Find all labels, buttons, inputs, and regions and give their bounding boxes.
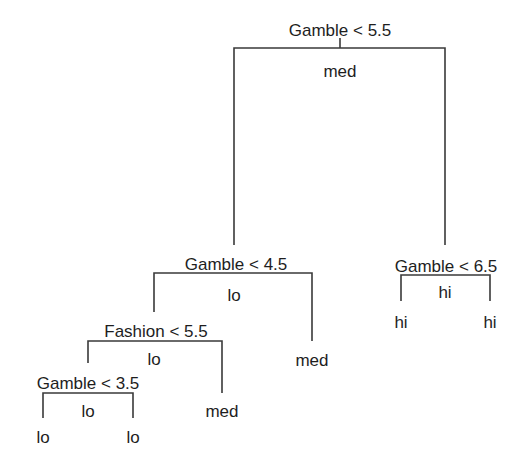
fashion-split-label: Fashion < 5.5 [104,323,208,340]
right-left-leaf: hi [394,314,407,331]
right-split-label: Gamble < 6.5 [395,258,498,275]
left-right-leaf: med [295,352,328,369]
decision-tree-diagram: Gamble < 5.5 med Gamble < 4.5 lo Gamble … [0,0,532,467]
right-right-leaf: hi [483,314,496,331]
gamble35-right-leaf: lo [126,429,139,446]
fashion-prediction-label: lo [147,351,160,368]
tree-edges [0,0,532,467]
root-split-label: Gamble < 5.5 [289,22,392,39]
gamble35-split-label: Gamble < 3.5 [37,375,140,392]
fashion-right-leaf: med [205,403,238,420]
left-prediction-label: lo [227,287,240,304]
root-prediction-label: med [323,63,356,80]
gamble35-prediction-label: lo [81,403,94,420]
right-prediction-label: hi [438,284,451,301]
gamble35-left-leaf: lo [36,429,49,446]
left-split-label: Gamble < 4.5 [185,256,288,273]
